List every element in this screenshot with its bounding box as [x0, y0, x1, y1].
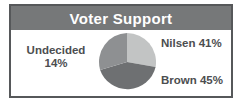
page-title: Voter Support — [70, 11, 173, 26]
chart-plot-area: Undecided 14% Nilsen 41% Brown 45% — [11, 30, 231, 96]
pie-label-undecided-value: 14% — [15, 57, 97, 70]
chart-title-bar: Voter Support — [11, 6, 231, 30]
pie-chart — [98, 33, 156, 91]
pie-label-undecided-name: Undecided — [27, 44, 86, 56]
chart-frame: Voter Support Undecided 14% Nilsen 41% B… — [9, 4, 233, 98]
pie-label-brown: Brown 45% — [161, 74, 223, 87]
pie-slice-nilsen — [127, 33, 156, 67]
chart-screenshot: Voter Support Undecided 14% Nilsen 41% B… — [0, 0, 249, 109]
pie-label-undecided: Undecided 14% — [15, 44, 97, 70]
pie-chart-svg — [98, 33, 156, 91]
pie-label-nilsen: Nilsen 41% — [161, 37, 222, 50]
